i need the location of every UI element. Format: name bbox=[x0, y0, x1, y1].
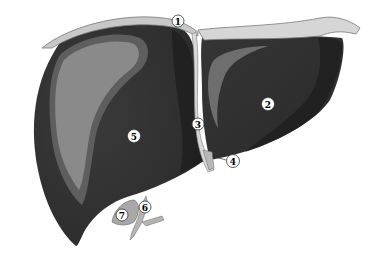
left-lobe bbox=[201, 35, 343, 160]
callout-7: 7 bbox=[116, 209, 128, 221]
callout-6: 6 bbox=[139, 201, 151, 213]
cystic-duct-branch bbox=[142, 216, 164, 226]
callout-3: 3 bbox=[192, 118, 204, 130]
callout-4-label: 4 bbox=[230, 157, 236, 167]
callout-5-label: 5 bbox=[131, 132, 137, 142]
callout-1-label: 1 bbox=[175, 17, 181, 27]
callout-5: 5 bbox=[128, 130, 140, 142]
callout-7-label: 7 bbox=[119, 211, 125, 221]
liver-diagram: 1 2 3 4 5 6 7 bbox=[0, 0, 378, 265]
callout-2: 2 bbox=[262, 98, 274, 110]
callout-6-label: 6 bbox=[142, 203, 148, 213]
callout-4: 4 bbox=[227, 155, 240, 168]
callout-2-label: 2 bbox=[265, 100, 271, 110]
callout-3-label: 3 bbox=[195, 120, 201, 130]
ligament-left bbox=[198, 17, 360, 40]
callout-1: 1 bbox=[172, 15, 184, 27]
